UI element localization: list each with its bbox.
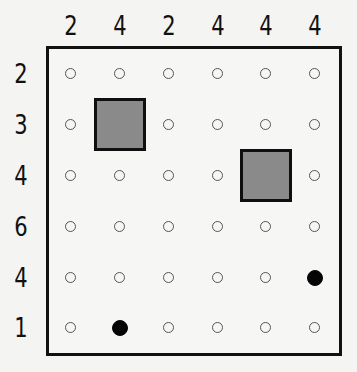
empty-dot-icon[interactable] <box>260 68 271 79</box>
puzzle-board <box>46 46 342 356</box>
empty-dot-icon[interactable] <box>260 119 271 130</box>
column-clue-1: 2 <box>59 12 82 39</box>
row-clue-1: 2 <box>9 60 32 87</box>
filled-dot-icon[interactable] <box>112 320 128 336</box>
empty-dot-icon[interactable] <box>163 68 174 79</box>
empty-dot-icon[interactable] <box>212 170 223 181</box>
empty-dot-icon[interactable] <box>212 322 223 333</box>
row-clue-2: 3 <box>9 111 32 138</box>
empty-dot-icon[interactable] <box>163 170 174 181</box>
empty-dot-icon[interactable] <box>260 322 271 333</box>
empty-dot-icon[interactable] <box>65 170 76 181</box>
empty-dot-icon[interactable] <box>114 170 125 181</box>
column-clue-5: 4 <box>254 12 277 39</box>
empty-dot-icon[interactable] <box>65 68 76 79</box>
empty-dot-icon[interactable] <box>65 272 76 283</box>
empty-dot-icon[interactable] <box>212 68 223 79</box>
empty-dot-icon[interactable] <box>114 221 125 232</box>
empty-dot-icon[interactable] <box>309 221 320 232</box>
empty-dot-icon[interactable] <box>163 221 174 232</box>
row-clue-4: 6 <box>9 213 32 240</box>
block-cell[interactable] <box>240 149 292 202</box>
empty-dot-icon[interactable] <box>309 170 320 181</box>
empty-dot-icon[interactable] <box>260 272 271 283</box>
empty-dot-icon[interactable] <box>309 119 320 130</box>
filled-dot-icon[interactable] <box>307 270 323 286</box>
row-clue-6: 1 <box>9 314 32 341</box>
column-clue-2: 4 <box>108 12 131 39</box>
empty-dot-icon[interactable] <box>260 221 271 232</box>
empty-dot-icon[interactable] <box>309 68 320 79</box>
empty-dot-icon[interactable] <box>65 221 76 232</box>
empty-dot-icon[interactable] <box>65 119 76 130</box>
empty-dot-icon[interactable] <box>114 68 125 79</box>
row-clue-5: 4 <box>9 264 32 291</box>
block-cell[interactable] <box>94 98 146 151</box>
row-clue-3: 4 <box>9 162 32 189</box>
empty-dot-icon[interactable] <box>212 221 223 232</box>
column-clue-6: 4 <box>303 12 326 39</box>
empty-dot-icon[interactable] <box>212 119 223 130</box>
empty-dot-icon[interactable] <box>65 322 76 333</box>
column-clue-3: 2 <box>157 12 180 39</box>
empty-dot-icon[interactable] <box>163 322 174 333</box>
column-clue-4: 4 <box>206 12 229 39</box>
empty-dot-icon[interactable] <box>163 119 174 130</box>
empty-dot-icon[interactable] <box>163 272 174 283</box>
empty-dot-icon[interactable] <box>212 272 223 283</box>
empty-dot-icon[interactable] <box>309 322 320 333</box>
empty-dot-icon[interactable] <box>114 272 125 283</box>
